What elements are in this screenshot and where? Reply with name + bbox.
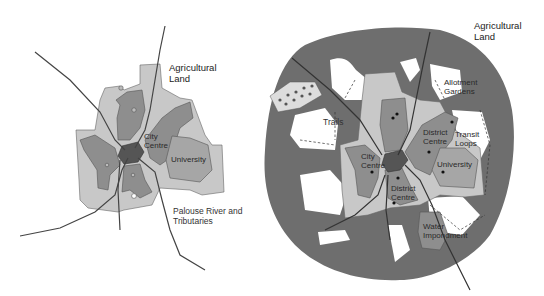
small-centre-dot (132, 108, 136, 112)
label-line: Palouse River and (173, 206, 242, 216)
label-line: District (423, 128, 447, 137)
label-line: Centre (423, 137, 447, 146)
label-line: City (144, 132, 168, 141)
label-line: Gardens (444, 87, 477, 96)
label-line: Tributaries (173, 216, 242, 226)
city-centre-core (382, 150, 408, 172)
label-line: Water (423, 222, 467, 231)
label-line: Impondment (423, 231, 467, 240)
farmland-pattern (278, 84, 313, 105)
right-label-district-centre-s: District Centre (391, 184, 415, 202)
right-label-trails: Trails (323, 117, 343, 127)
label-line: Agricultural (474, 20, 522, 31)
right-label-agricultural: Agricultural Land (474, 20, 522, 42)
right-label-transit-loops: Transit Loops (455, 130, 479, 148)
left-label-city-centre: City Centre (144, 132, 168, 150)
right-label-water-impoundment: Water Impondment (423, 222, 467, 240)
label-line: Loops (455, 139, 479, 148)
hatched-farmland (270, 82, 322, 112)
small-centre-dot (132, 194, 137, 199)
label-line: District (391, 184, 415, 193)
trails-paths (300, 80, 490, 230)
right-label-university: University (437, 160, 472, 169)
left-city-map (0, 0, 272, 296)
label-line: Land (474, 31, 522, 42)
small-centre-dot (105, 163, 109, 167)
label-line: City (361, 152, 385, 161)
left-label-river: Palouse River and Tributaries (173, 206, 242, 226)
label-line: Allotment (444, 78, 477, 87)
small-centre-dot (131, 173, 135, 177)
urban-medium-north (380, 98, 408, 152)
label-line: Land (169, 73, 217, 84)
label-line: Agricultural (169, 62, 217, 73)
label-line: Centre (144, 141, 168, 150)
right-label-district-centre-ne: District Centre (423, 128, 447, 146)
label-line: Centre (391, 193, 415, 202)
agricultural-band (264, 27, 513, 280)
left-label-agricultural: Agricultural Land (169, 62, 217, 84)
label-line: Centre (361, 161, 385, 170)
small-centre-dot (119, 86, 123, 90)
label-line: Transit (455, 130, 479, 139)
right-label-city-centre: City Centre (361, 152, 385, 170)
left-label-university: University (171, 155, 206, 164)
right-label-allotment: Allotment Gardens (444, 78, 477, 96)
